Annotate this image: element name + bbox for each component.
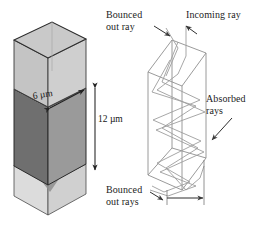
wire-bottom-face: [148, 148, 206, 190]
label-absorbed-rays: Absorbed rays: [206, 93, 246, 116]
shaded-cuboid: [14, 22, 95, 215]
leader-bounced-out-rays: [150, 192, 163, 200]
ray-bounce-chain-c: [152, 60, 198, 190]
label-bounced-out-rays: Bounced out rays: [106, 184, 142, 207]
label-height-dimension: 12 µm: [98, 114, 123, 124]
leader-incoming-ray: [186, 26, 197, 34]
label-incoming-ray: Incoming ray: [186, 9, 241, 21]
label-bounced-out-ray: Bounced out ray: [106, 9, 142, 32]
leader-absorbed-rays: [212, 118, 232, 140]
figure-canvas: Bounced out ray Incoming ray Absorbed ra…: [0, 0, 272, 227]
